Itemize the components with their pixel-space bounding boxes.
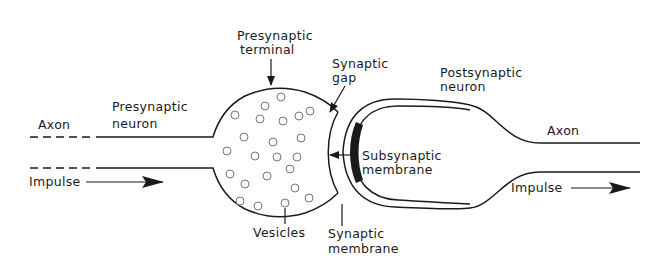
vesicle	[305, 194, 313, 202]
vesicle	[291, 184, 299, 192]
vesicle	[281, 199, 289, 207]
label-synaptic-membrane: Synaptic membrane	[328, 204, 399, 256]
vesicle	[295, 112, 303, 120]
vesicles-group	[223, 93, 314, 210]
label-impulse-left: Impulse	[29, 174, 163, 189]
impulse-left-text: Impulse	[29, 174, 81, 189]
vesicle	[279, 117, 287, 125]
vesicle	[297, 134, 305, 142]
vesicle	[240, 133, 248, 141]
vesicle	[223, 147, 231, 155]
axon-right-label: Axon	[547, 123, 579, 138]
vesicles-text: Vesicles	[253, 225, 305, 240]
postsynaptic-neuron-line2: neuron	[440, 79, 486, 94]
vesicle	[261, 102, 269, 110]
vesicle	[293, 153, 301, 161]
presynaptic-neuron-line2: neuron	[112, 116, 158, 131]
vesicle	[251, 152, 259, 160]
synaptic-gap-arrow	[330, 86, 345, 112]
label-vesicles: Vesicles	[253, 208, 305, 240]
presynaptic-face	[328, 112, 338, 193]
synapse-diagram: Presynaptic terminal Synaptic gap Postsy…	[0, 0, 669, 279]
label-synaptic-gap: Synaptic gap	[330, 56, 389, 112]
synaptic-membrane-line1: Synaptic	[328, 226, 385, 241]
vesicle	[231, 111, 239, 119]
label-presynaptic-terminal: Presynaptic terminal	[237, 28, 313, 85]
synaptic-gap-line2: gap	[332, 70, 356, 85]
label-postsynaptic-neuron: Postsynaptic neuron	[440, 65, 522, 94]
presynaptic-terminal-line2: terminal	[240, 42, 295, 57]
vesicle	[273, 153, 281, 161]
axon-left-label: Axon	[38, 117, 70, 132]
synaptic-gap-line1: Synaptic	[332, 56, 389, 71]
vesicle	[286, 165, 294, 173]
label-presynaptic-neuron: Presynaptic neuron	[112, 99, 188, 131]
label-impulse-right: Impulse	[511, 180, 630, 195]
presynaptic-neuron-line1: Presynaptic	[112, 99, 188, 114]
subsynaptic-membrane-line2: membrane	[362, 162, 433, 177]
vesicle	[254, 202, 262, 210]
vesicle	[269, 138, 277, 146]
postsynaptic-neuron-line1: Postsynaptic	[440, 65, 522, 80]
presynaptic-bottom-outline	[96, 168, 338, 217]
presynaptic-terminal-line1: Presynaptic	[237, 28, 313, 43]
vesicle	[277, 93, 285, 101]
subsynaptic-membrane-line1: Subsynaptic	[362, 148, 442, 163]
vesicle	[306, 107, 314, 115]
synaptic-membrane-line2: membrane	[328, 241, 399, 256]
vesicle	[256, 115, 264, 123]
impulse-right-text: Impulse	[511, 180, 563, 195]
vesicle	[241, 180, 249, 188]
vesicle	[263, 172, 271, 180]
vesicle	[236, 197, 244, 205]
vesicle	[226, 170, 234, 178]
